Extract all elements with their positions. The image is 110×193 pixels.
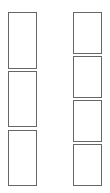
right-column-box-1 bbox=[73, 12, 102, 54]
right-column-box-4 bbox=[73, 144, 102, 186]
right-column-box-3 bbox=[73, 100, 102, 142]
right-column bbox=[0, 0, 110, 193]
right-column-box-2 bbox=[73, 56, 102, 98]
